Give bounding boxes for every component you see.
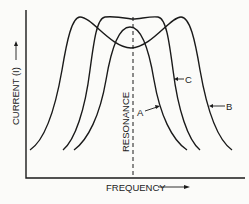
curve-b xyxy=(30,17,232,150)
curve-c xyxy=(63,17,200,150)
arrow-a xyxy=(145,107,157,111)
y-axis-label: CURRENT (I) xyxy=(10,67,21,125)
label-a: A xyxy=(137,107,144,118)
x-axis-label: FREQUENCY xyxy=(106,182,166,193)
resonance-diagram: A C B RESONANCE CURRENT (I) FREQUENCY xyxy=(0,0,249,204)
axes xyxy=(26,10,245,178)
label-b: B xyxy=(226,101,232,112)
y-axis-arrowhead xyxy=(14,41,18,46)
arrowhead-b xyxy=(209,104,213,108)
resonance-label: RESONANCE xyxy=(120,92,131,152)
label-c: C xyxy=(185,74,192,85)
x-axis-arrowhead xyxy=(184,185,190,189)
